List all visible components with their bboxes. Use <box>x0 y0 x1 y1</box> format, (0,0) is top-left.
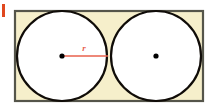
right-center-dot <box>153 53 158 58</box>
radius-label: r <box>82 43 86 53</box>
geometry-figure-svg: r <box>0 0 212 107</box>
left-center-dot <box>59 53 64 58</box>
left-edge-orange-marker <box>2 4 5 17</box>
geometry-figure-container: r <box>0 0 212 107</box>
